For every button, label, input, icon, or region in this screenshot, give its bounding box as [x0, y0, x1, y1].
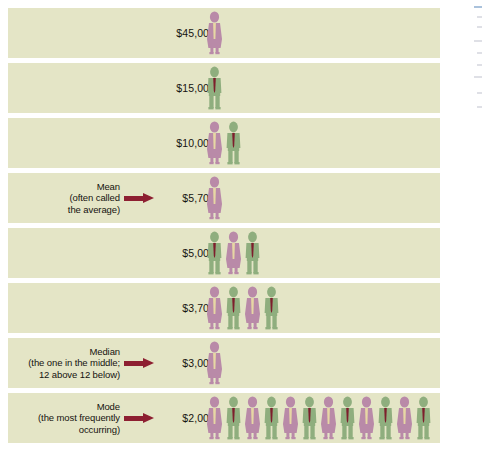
salary-value: $2,000	[125, 393, 215, 443]
annotation-line-3: the average)	[68, 204, 120, 215]
margin-text-fragment	[474, 6, 482, 8]
annotation-label-mode: Mode(the most frequentlyoccurring)	[38, 401, 120, 435]
person-male-icon	[338, 396, 357, 440]
salary-row-row-45000: $45,000	[8, 8, 440, 58]
person-male-icon	[300, 396, 319, 440]
person-female-icon	[319, 396, 338, 440]
person-female-icon	[224, 231, 243, 275]
salary-value: $45,000	[125, 8, 215, 58]
annotation-line-2: (the most frequently	[38, 412, 120, 423]
people-group	[205, 173, 224, 223]
salary-value: $5,700	[125, 173, 215, 223]
people-group	[205, 63, 224, 113]
annotation-line-3: occurring)	[38, 424, 120, 435]
people-group	[205, 228, 262, 278]
pictograph-figure: $45,000$15,000$10,000Mean(often calledth…	[0, 0, 488, 452]
people-group	[205, 338, 224, 388]
person-female-icon	[205, 176, 224, 220]
people-group	[205, 118, 243, 168]
person-male-icon	[224, 121, 243, 165]
salary-row-row-3700: $3,700	[8, 283, 440, 333]
person-male-icon	[414, 396, 433, 440]
person-male-icon	[224, 286, 243, 330]
person-female-icon	[205, 396, 224, 440]
margin-text-fragment	[477, 64, 482, 66]
salary-row-row-15000: $15,000	[8, 63, 440, 113]
person-female-icon	[243, 396, 262, 440]
salary-value: $10,000	[125, 118, 215, 168]
person-female-icon	[205, 286, 224, 330]
annotation-line-1: Mean	[68, 181, 120, 192]
margin-text-fragment	[477, 106, 482, 108]
salary-row-row-10000: $10,000	[8, 118, 440, 168]
salary-row-row-3000: Median(the one in the middle;12 above 12…	[8, 338, 440, 388]
margin-text-fragment	[477, 16, 482, 18]
margin-text-fragment	[477, 52, 482, 54]
salary-value: $3,700	[125, 283, 215, 333]
person-male-icon	[262, 396, 281, 440]
person-female-icon	[281, 396, 300, 440]
person-male-icon	[262, 286, 281, 330]
annotation-line-1: Median	[28, 346, 120, 357]
salary-row-row-5000: $5,000	[8, 228, 440, 278]
annotation-label-median: Median(the one in the middle;12 above 12…	[28, 346, 120, 380]
person-male-icon	[205, 231, 224, 275]
people-group	[205, 283, 281, 333]
people-group	[205, 393, 433, 443]
annotation-line-2: (often called	[68, 192, 120, 203]
margin-text-fragment	[477, 26, 482, 28]
person-female-icon	[205, 121, 224, 165]
margin-text-fragment	[474, 40, 482, 42]
salary-value: $15,000	[125, 63, 215, 113]
annotation-line-2: (the one in the middle;	[28, 357, 120, 368]
person-female-icon	[205, 341, 224, 385]
person-female-icon	[243, 286, 262, 330]
annotation-line-1: Mode	[38, 401, 120, 412]
page-right-margin-artifact	[470, 0, 488, 452]
person-male-icon	[376, 396, 395, 440]
person-female-icon	[357, 396, 376, 440]
person-female-icon	[395, 396, 414, 440]
salary-row-row-2000: Mode(the most frequentlyoccurring)$2,000	[8, 393, 440, 443]
salary-row-row-5700: Mean(often calledthe average)$5,700	[8, 173, 440, 223]
salary-value: $5,000	[125, 228, 215, 278]
salary-value: $3,000	[125, 338, 215, 388]
person-female-icon	[205, 11, 224, 55]
person-male-icon	[224, 396, 243, 440]
annotation-label-mean: Mean(often calledthe average)	[68, 181, 120, 215]
margin-text-fragment	[477, 92, 482, 94]
people-group	[205, 8, 224, 58]
annotation-line-3: 12 above 12 below)	[28, 369, 120, 380]
margin-text-fragment	[474, 76, 482, 78]
person-male-icon	[205, 66, 224, 110]
person-male-icon	[243, 231, 262, 275]
